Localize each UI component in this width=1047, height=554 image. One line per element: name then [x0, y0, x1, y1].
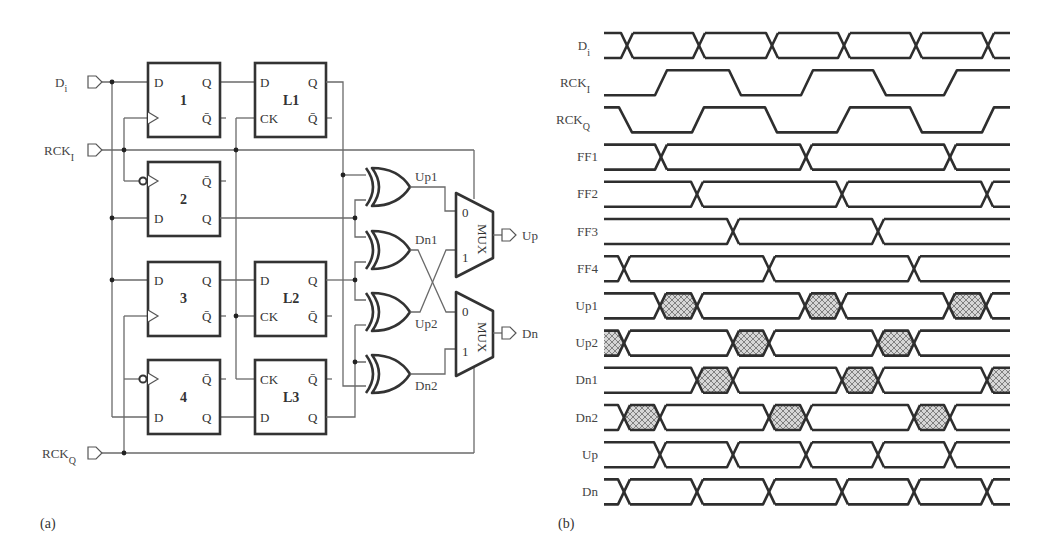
latch-l3: CK Q̄ L3 D Q: [255, 360, 326, 434]
svg-text:D: D: [260, 273, 269, 288]
signal-label-ff3: FF3: [577, 224, 598, 239]
svg-text:CK: CK: [260, 111, 279, 126]
svg-text:Q: Q: [202, 75, 212, 90]
svg-text:D: D: [154, 75, 163, 90]
signal-label-dn: Dn: [582, 484, 598, 499]
waveform-ff1: [604, 145, 1010, 170]
circuit-schematic: Di RCKI RCKQ: [40, 63, 538, 532]
svg-text:MUX: MUX: [475, 322, 490, 353]
waveform-dn1: [604, 368, 1010, 393]
input-terminal-rcki: [88, 144, 474, 156]
mux-up: 0 1 MUX Up: [456, 193, 538, 277]
flipflop-1: D Q 1 Q̄: [148, 63, 220, 137]
svg-text:Q: Q: [202, 211, 212, 226]
svg-text:Q̄: Q̄: [308, 309, 318, 324]
output-terminal-up: [502, 229, 516, 241]
waveform-ff3: [604, 219, 1010, 244]
svg-text:L1: L1: [283, 93, 299, 108]
latch-l1: D Q L1 CK Q̄: [255, 63, 326, 137]
svg-text:1: 1: [180, 93, 187, 108]
signal-label-ff1: FF1: [577, 149, 598, 164]
xor-gate-dn1: [366, 231, 410, 269]
waveform-di: [604, 33, 1010, 58]
waveform-up2: [604, 331, 1010, 356]
svg-text:Q̄: Q̄: [202, 372, 212, 387]
output-terminal-dn: [502, 327, 516, 339]
svg-text:MUX: MUX: [475, 224, 490, 255]
svg-text:Q̄: Q̄: [202, 309, 212, 324]
svg-text:Q: Q: [308, 410, 318, 425]
waveform-ff4: [604, 256, 1010, 281]
waveform-dn2: [604, 405, 1010, 430]
svg-text:L2: L2: [283, 291, 299, 306]
waveform-up: [604, 442, 1010, 467]
output-label-dn: Dn: [522, 326, 538, 341]
signal-label-up1: Up1: [576, 298, 598, 313]
svg-text:0: 0: [462, 205, 469, 220]
svg-text:Q: Q: [202, 410, 212, 425]
xor-gate-dn2: [366, 355, 410, 393]
signal-label-di: Di: [578, 38, 590, 58]
svg-text:D: D: [154, 273, 163, 288]
waveform-up1: [604, 293, 1010, 318]
svg-text:Q̄: Q̄: [202, 174, 212, 189]
svg-text:Q: Q: [308, 75, 318, 90]
inversion-bubble-icon: [139, 375, 146, 382]
xor-gate-up2: [366, 293, 410, 331]
signal-label-up: Up: [582, 447, 598, 462]
net-label-dn2: Dn2: [415, 378, 437, 393]
signal-label-dn2: Dn2: [576, 410, 598, 425]
svg-text:Q̄: Q̄: [202, 111, 212, 126]
mux-dn: 0 1 MUX Dn: [456, 292, 538, 376]
svg-text:1: 1: [462, 250, 469, 265]
signal-label-up2: Up2: [576, 335, 598, 350]
panel-a-caption: (a): [40, 516, 56, 532]
output-label-up: Up: [522, 228, 538, 243]
panel-b-caption: (b): [558, 516, 575, 532]
figure-canvas: Di RCKI RCKQ: [0, 0, 1047, 554]
flipflop-3: D Q 3 Q̄: [148, 262, 220, 336]
net-label-dn1: Dn1: [415, 232, 437, 247]
signal-waveforms: [604, 33, 1010, 504]
svg-text:2: 2: [180, 192, 187, 207]
inversion-bubble-icon: [139, 177, 146, 184]
svg-text:Q̄: Q̄: [308, 372, 318, 387]
svg-text:D: D: [154, 410, 163, 425]
svg-text:1: 1: [462, 344, 469, 359]
svg-text:0: 0: [462, 304, 469, 319]
signal-label-dn1: Dn1: [576, 372, 598, 387]
net-label-up1: Up1: [415, 169, 437, 184]
signal-label-rcki: RCKI: [560, 75, 590, 95]
input-label-rckq: RCKQ: [42, 446, 77, 466]
net-label-up2: Up2: [415, 316, 437, 331]
svg-text:4: 4: [180, 390, 187, 405]
input-label-di: Di: [55, 75, 67, 94]
waveform-dn: [604, 479, 1010, 504]
waveform-rcki: [604, 70, 1010, 95]
svg-text:3: 3: [180, 291, 187, 306]
input-terminal-rckq: [88, 447, 474, 459]
signal-label-ff4: FF4: [577, 261, 598, 276]
svg-text:Q: Q: [202, 273, 212, 288]
flipflop-4: Q̄ 4 D Q: [139, 360, 220, 434]
svg-text:Q̄: Q̄: [308, 111, 318, 126]
svg-text:D: D: [260, 410, 269, 425]
timing-diagram: DiRCKIRCKQFF1FF2FF3FF4Up1Up2Dn1Dn2UpDn (…: [556, 33, 1010, 532]
flipflop-2: Q̄ 2 D Q: [139, 162, 220, 236]
svg-text:D: D: [260, 75, 269, 90]
waveform-ff2: [604, 182, 1010, 207]
signal-labels: DiRCKIRCKQFF1FF2FF3FF4Up1Up2Dn1Dn2UpDn: [556, 38, 598, 499]
waveform-rckq: [604, 107, 1010, 132]
svg-text:Q: Q: [308, 273, 318, 288]
svg-text:D: D: [154, 211, 163, 226]
svg-text:CK: CK: [260, 372, 279, 387]
input-label-rcki: RCKI: [44, 143, 74, 163]
input-terminal-di: [88, 76, 148, 88]
svg-text:L3: L3: [283, 390, 299, 405]
signal-label-ff2: FF2: [577, 186, 598, 201]
latch-l2: D Q L2 CK Q̄: [255, 262, 326, 336]
signal-label-rckq: RCKQ: [556, 112, 591, 132]
svg-text:CK: CK: [260, 309, 279, 324]
xor-gate-up1: [366, 168, 410, 206]
